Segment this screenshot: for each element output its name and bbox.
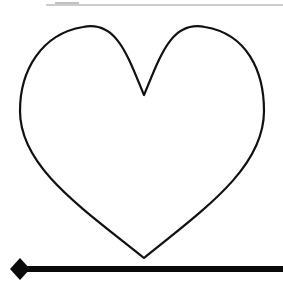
figure-svg [0, 0, 283, 289]
figure-canvas: A large outlined heart centered on a whi… [0, 0, 283, 289]
